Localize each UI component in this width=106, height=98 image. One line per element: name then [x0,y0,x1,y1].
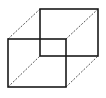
cube-diagram [0,0,106,98]
depth-edge [66,56,98,87]
depth-edge [66,9,98,39]
depth-edges [8,9,98,87]
depth-edge [8,9,40,39]
back-face [40,9,98,56]
depth-edge [8,56,40,87]
front-face [8,39,66,87]
